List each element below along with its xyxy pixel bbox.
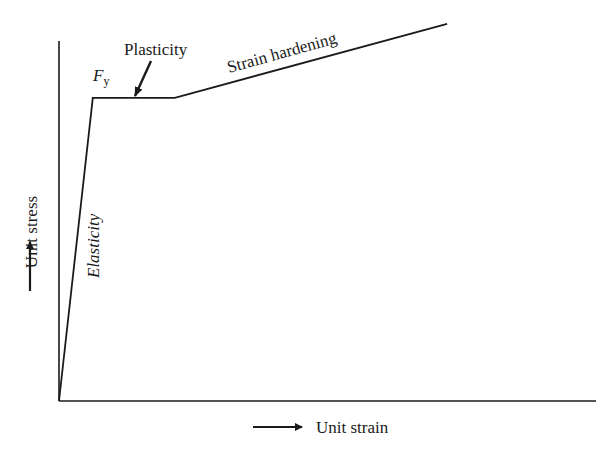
yield-subscript: y [103,74,109,88]
plasticity-label: Plasticity [124,40,188,59]
strain-hardening-label: Strain hardening [225,28,339,77]
yield-symbol: F [92,66,104,85]
x-axis-label: Unit strain [316,418,389,437]
plasticity-pointer-arrow-icon [135,61,151,96]
elasticity-label: Elasticity [84,213,103,279]
y-axis-label: Unit stress [22,196,41,268]
stress-strain-curve [59,24,447,401]
stress-strain-diagram: Unit stress Unit strain Elasticity Plast… [0,0,614,461]
yield-point-label: Fy [92,66,109,88]
